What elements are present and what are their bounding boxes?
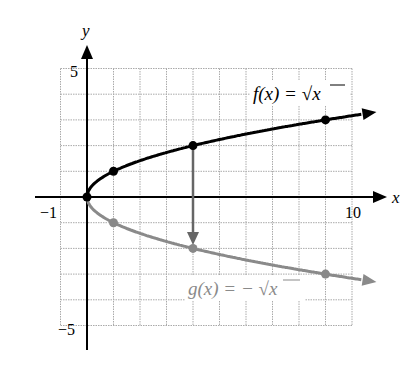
y-min-tick: −5 [58,321,75,338]
x-min-tick: −1 [40,204,57,221]
data-point [189,244,198,253]
x-max-tick: 10 [345,204,361,221]
g-arrow-icon [362,274,377,286]
data-point [321,115,330,124]
data-point [189,141,198,150]
reflection-arrow [187,146,199,245]
y-max-tick: 5 [70,63,78,80]
f-label: f(x) = √x [253,83,321,105]
data-point [83,193,92,202]
data-point [321,270,330,279]
f-arrow-icon [362,108,377,120]
g-label: g(x) = − √x [188,278,278,300]
data-point [109,167,118,176]
g-curve [87,197,361,280]
data-point [109,218,118,227]
down-arrow-icon [187,232,199,245]
x-axis-label: x [391,188,400,207]
y-axis-label: y [80,21,90,40]
y-axis-arrow-icon [81,45,93,59]
x-axis-arrow-icon [373,191,387,203]
f-curve [87,114,361,197]
graph: f(x) = √x g(x) = − √x y x 5 −5 −1 10 [0,0,416,365]
